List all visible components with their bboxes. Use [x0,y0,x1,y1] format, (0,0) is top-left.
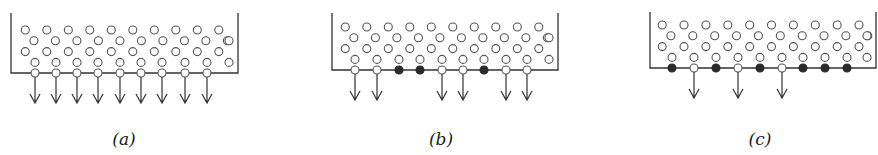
particle [658,43,666,51]
particle [107,26,115,34]
particle [30,37,38,45]
particle [768,21,776,29]
particle [798,32,806,40]
blocked-particle [416,66,424,74]
particle [393,34,401,42]
hole-particle [502,66,510,74]
panel-label: (b) [429,129,453,149]
hole-particle [373,66,381,74]
particle [754,32,762,40]
particle [52,58,60,66]
particle [406,45,414,53]
particle [116,58,124,66]
particle [341,45,349,53]
particle [746,43,754,51]
blocked-particle [843,64,851,72]
particle [371,34,379,42]
particle [172,26,180,34]
particle [768,43,776,51]
particle [363,45,371,53]
down-arrow-icon [115,77,125,103]
particle [137,37,145,45]
particle-diagram: (a)(b)(c) [0,0,878,155]
down-arrow-icon [501,74,511,100]
particle [480,55,488,63]
down-arrow-icon [777,72,787,98]
hole-particle [778,64,786,72]
particle [457,34,465,42]
particle [414,34,422,42]
particle [225,37,233,45]
down-arrow-icon [372,74,382,100]
hole-particle [137,69,145,77]
blocked-particle [756,64,764,72]
particle [193,26,201,34]
particle [535,23,543,31]
particle [350,34,358,42]
panel-b: (b) [332,13,558,149]
particle [492,23,500,31]
particle [384,45,392,53]
particle [86,48,94,56]
down-arrow-icon [136,77,146,103]
down-arrow-icon [30,77,40,103]
particle [129,26,137,34]
particle [746,21,754,29]
blocked-particle [480,66,488,74]
particle [129,48,137,56]
down-arrow-icon [157,77,167,103]
blocked-particle [395,66,403,74]
down-arrow-icon [522,74,532,100]
particle [363,23,371,31]
hole-particle [203,69,211,77]
hole-particle [438,66,446,74]
particle [215,48,223,56]
down-arrow-icon [180,77,190,103]
hole-particle [181,69,189,77]
particle [225,58,233,66]
particle [821,53,829,61]
particle [855,21,863,29]
particle [502,55,510,63]
particle [406,23,414,31]
particle [31,58,39,66]
particle [734,53,742,61]
particle [724,43,732,51]
particle [150,48,158,56]
particle [427,23,435,31]
particle [203,58,211,66]
particle [116,37,124,45]
particle [172,48,180,56]
particle [21,26,29,34]
particle [43,26,51,34]
particle [21,48,29,56]
particle [51,37,59,45]
particle [416,55,424,63]
particle [202,37,210,45]
hole-particle [459,66,467,74]
particle [513,45,521,53]
particle [690,53,698,61]
particle [733,32,741,40]
particle [215,26,223,34]
particle [137,58,145,66]
particle [492,45,500,53]
particle [658,21,666,29]
down-arrow-icon [437,74,447,100]
particle [668,53,676,61]
particle [470,23,478,31]
hole-particle [116,69,124,77]
particle [384,23,392,31]
particle [158,58,166,66]
down-arrow-icon [202,77,212,103]
particle [351,55,359,63]
down-arrow-icon [51,77,61,103]
particle [756,53,764,61]
particle [778,53,786,61]
particle [449,23,457,31]
particle [94,37,102,45]
blocked-particle [821,64,829,72]
hole-particle [734,64,742,72]
particle [724,21,732,29]
hole-particle [523,66,531,74]
